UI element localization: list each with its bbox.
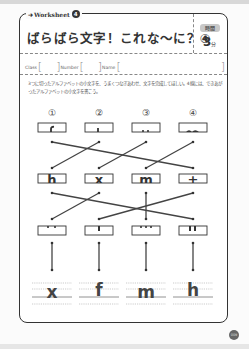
piece-glyph (54, 226, 56, 228)
piece-glyph (140, 226, 142, 228)
piece-glyph (194, 226, 196, 231)
piece-box (132, 123, 160, 132)
piece-row1 (179, 123, 207, 132)
connector-dot (192, 269, 195, 272)
connector-dot (192, 218, 195, 221)
connector-dot (145, 192, 148, 195)
piece-row2: x (85, 172, 113, 187)
connector-dot (98, 141, 101, 144)
connector-dot (51, 192, 54, 195)
piece-row2: m (132, 172, 160, 187)
answer-letter: x (32, 283, 72, 301)
connector-dot (145, 242, 148, 245)
piece-row3 (38, 226, 66, 235)
column-label: ③ (142, 108, 150, 118)
answer-letter: f (79, 281, 119, 299)
piece-glyph: h (47, 172, 56, 187)
connector-dot (51, 269, 54, 272)
piece-row3 (179, 226, 207, 235)
connector-dot (145, 269, 148, 272)
answer-letter: m (126, 283, 166, 301)
connector-dot (98, 192, 101, 195)
connector-dot (51, 167, 54, 170)
piece-glyph: + (188, 172, 199, 187)
piece-glyph (47, 226, 49, 228)
connector-dot (98, 167, 101, 170)
connector-dot (98, 269, 101, 272)
piece-row2: + (179, 172, 207, 187)
piece-glyph: m (139, 172, 153, 187)
piece-box (38, 226, 66, 235)
worksheet-page: ➜ Worksheet 4 ばらばら文字！これな〜に？④ 時間 3分 Class… (0, 0, 249, 349)
column-label: ④ (189, 108, 197, 118)
connector-dot (192, 167, 195, 170)
connector-dot (145, 218, 148, 221)
piece-glyph (142, 130, 144, 132)
connector-dot (145, 167, 148, 170)
piece-row3 (132, 226, 160, 235)
connector-dot (192, 242, 195, 245)
connector-dot (98, 242, 101, 245)
connector-dot (51, 218, 54, 221)
connector-line (52, 193, 193, 219)
piece-row1 (85, 123, 113, 132)
connector-dot (145, 141, 148, 144)
piece-glyph (150, 226, 152, 228)
piece-row2: h (38, 172, 66, 187)
piece-glyph (98, 226, 100, 231)
piece-box (179, 123, 207, 132)
piece-glyph: x (95, 172, 104, 187)
bottom-strip (0, 344, 249, 349)
connector-dot (51, 242, 54, 245)
page-number-badge: 009 (229, 330, 239, 340)
piece-glyph (147, 130, 149, 132)
column-label: ① (48, 108, 56, 118)
piece-row3 (85, 226, 113, 235)
answer-letter: h (173, 281, 213, 299)
connector-dot (98, 218, 101, 221)
piece-row1 (132, 123, 160, 132)
piece-glyph (189, 226, 191, 231)
piece-row1 (38, 123, 66, 132)
connector-line (99, 142, 146, 168)
connector-dot (192, 141, 195, 144)
piece-glyph (145, 226, 147, 228)
connector-dot (51, 141, 54, 144)
piece-box (85, 123, 113, 132)
column-label: ② (95, 108, 103, 118)
connector-dot (192, 192, 195, 195)
piece-box (179, 226, 207, 235)
